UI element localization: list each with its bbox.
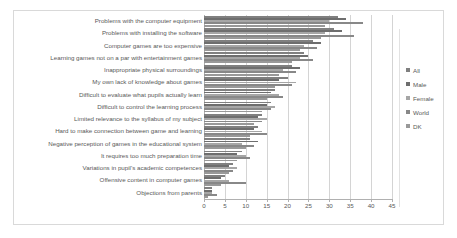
bar-group (204, 125, 392, 137)
bar-dk (204, 49, 300, 51)
plot-area (204, 15, 392, 199)
x-axis-tick-label: 15 (263, 202, 270, 209)
legend-swatch-icon (406, 124, 410, 128)
category-label: Problems with installing the software (102, 27, 202, 39)
x-axis-tick-label: 10 (242, 202, 249, 209)
legend-label: Male (413, 81, 426, 88)
bar-dk (204, 160, 237, 162)
x-axis-tick-labels: 051015202530354045 (204, 199, 392, 215)
legend-item[interactable]: Male (406, 77, 452, 91)
x-axis-tick-label: 30 (326, 202, 333, 209)
legend-swatch-icon (406, 96, 410, 100)
bar-group (204, 52, 392, 64)
bar-group (204, 64, 392, 76)
bar-group (204, 138, 392, 150)
legend-item[interactable]: DK (406, 119, 452, 133)
bar-group (204, 187, 392, 199)
legend-item[interactable]: All (406, 63, 452, 77)
bar-group (204, 150, 392, 162)
bar-dk (204, 147, 246, 149)
legend-label: DK (413, 123, 422, 130)
category-label: Limited relevance to the syllabus of my … (74, 113, 202, 125)
x-axis-tick-label: 5 (223, 202, 226, 209)
bar-group (204, 101, 392, 113)
legend-label: Female (413, 95, 434, 102)
bar-dk (204, 74, 279, 76)
bar-dk (204, 184, 221, 186)
x-axis-tick-label: 40 (368, 202, 375, 209)
legend-label: World (413, 109, 429, 116)
bar-dk (204, 172, 229, 174)
bar-dk (204, 196, 208, 198)
bar-dk (204, 61, 292, 63)
category-label: Problems with the computer equipment (95, 15, 202, 27)
category-label: Difficult to control the learning proces… (97, 101, 202, 113)
category-axis-labels: Problems with the computer equipmentProb… (18, 15, 202, 199)
category-label: Negative perception of games in the educ… (48, 138, 202, 150)
bar-group (204, 89, 392, 101)
bar-group (204, 162, 392, 174)
bar-group (204, 113, 392, 125)
bar-group (204, 15, 392, 27)
category-label: Computer games are too expensive (104, 40, 202, 52)
legend-item[interactable]: Female (406, 91, 452, 105)
bar-dk (204, 135, 250, 137)
category-label: Inappropriate physical surroundings (104, 64, 202, 76)
x-axis-tick-label: 0 (202, 202, 205, 209)
legend-swatch-icon (406, 110, 410, 114)
legend-separator (399, 29, 400, 207)
chart-legend: AllMaleFemaleWorldDK (406, 63, 452, 133)
bar-group (204, 174, 392, 186)
x-axis-tick-label: 35 (347, 202, 354, 209)
legend-label: All (413, 67, 420, 74)
bar-dk (204, 123, 254, 125)
bar-group (204, 27, 392, 39)
category-label: Hard to make connection between game and… (55, 125, 202, 137)
category-label: Objections from parents (136, 187, 202, 199)
category-label: Variations in pupil's academic competenc… (83, 162, 202, 174)
x-axis-tick-label: 20 (284, 202, 291, 209)
bar-dk (204, 37, 321, 39)
category-label: It requires too much preparation time (101, 150, 202, 162)
bar-dk (204, 86, 275, 88)
bar-dk (204, 25, 325, 27)
legend-swatch-icon (406, 68, 410, 72)
x-axis-tick-label: 25 (305, 202, 312, 209)
grid-line (392, 15, 393, 199)
bar-group (204, 76, 392, 88)
x-axis-tick-label: 45 (389, 202, 396, 209)
legend-item[interactable]: World (406, 105, 452, 119)
legend-swatch-icon (406, 82, 410, 86)
category-label: My own lack of knowledge about games (92, 76, 202, 88)
chart-container: Problems with the computer equipmentProb… (13, 10, 444, 225)
bar-group (204, 40, 392, 52)
category-label: Difficult to evaluate what pupils actual… (79, 89, 202, 101)
bar-dk (204, 111, 262, 113)
category-label: Learning games not on a par with enterta… (50, 52, 202, 64)
category-label: Offensive content in computer games (100, 174, 202, 186)
bar-dk (204, 98, 267, 100)
